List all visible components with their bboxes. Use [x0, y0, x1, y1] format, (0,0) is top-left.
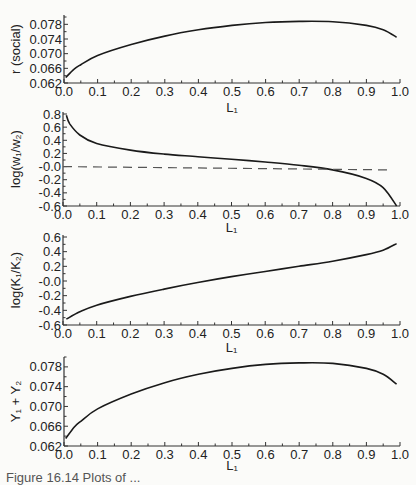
x-tick-label: 0.8 — [324, 207, 342, 222]
y-axis-label: r (social) — [8, 24, 23, 74]
x-axis-label: L₁ — [226, 458, 238, 473]
y-tick-label: 0.066 — [29, 61, 62, 76]
x-tick-label: 0.6 — [256, 207, 274, 222]
y-tick-label: 0.6 — [43, 230, 61, 245]
data-curve — [66, 115, 396, 206]
y-tick-label: -0.4 — [39, 303, 61, 318]
x-tick-label: 0.1 — [88, 326, 106, 341]
x-tick-label: 0.4 — [189, 207, 207, 222]
panel-4: 0.00.10.20.30.40.50.60.70.80.91.00.0620.… — [8, 357, 409, 473]
panel-3: 0.00.10.20.30.40.50.60.70.80.91.00.60.40… — [8, 230, 409, 356]
x-tick-label: 0.2 — [121, 326, 139, 341]
x-tick-label: 0.3 — [156, 447, 174, 462]
y-tick-label: 0.2 — [43, 259, 61, 274]
x-tick-label: 0.5 — [223, 84, 241, 99]
x-tick-label: 0.7 — [290, 84, 308, 99]
x-tick-label: 0.1 — [88, 207, 106, 222]
x-tick-label: 0.9 — [357, 326, 375, 341]
data-curve — [66, 244, 396, 320]
x-tick-label: 0.4 — [189, 447, 207, 462]
x-tick-label: 0.8 — [324, 84, 342, 99]
y-tick-label: -0.2 — [39, 288, 61, 303]
y-tick-label: -0.0 — [39, 274, 61, 289]
y-tick-label: -0.6 — [39, 199, 61, 214]
y-tick-label: 0.074 — [29, 32, 62, 47]
y-tick-label: 0.066 — [29, 419, 62, 434]
data-curve — [66, 21, 397, 77]
x-tick-label: 0.9 — [357, 207, 375, 222]
figure-caption: Figure 16.14 Plots of ... — [6, 470, 140, 485]
x-tick-label: 1.0 — [391, 84, 409, 99]
x-tick-label: 0.4 — [189, 326, 207, 341]
y-tick-label: 0.070 — [29, 399, 62, 414]
x-tick-label: 0.7 — [290, 447, 308, 462]
y-tick-label: 0.062 — [29, 76, 62, 91]
x-tick-label: 0.7 — [290, 326, 308, 341]
x-tick-label: 0.6 — [257, 447, 275, 462]
x-tick-label: 0.3 — [155, 326, 173, 341]
x-tick-label: 0.5 — [222, 326, 240, 341]
data-curve — [66, 363, 397, 439]
x-axis-label: L₁ — [226, 220, 238, 235]
y-tick-label: 0.070 — [29, 46, 62, 61]
x-tick-label: 0.2 — [122, 84, 140, 99]
y-axis-label: Y₁ + Y₂ — [8, 381, 23, 422]
y-tick-label: 0.078 — [29, 17, 62, 32]
y-tick-label: -0.6 — [39, 318, 61, 333]
x-axis-label: L₁ — [226, 100, 238, 115]
reference-dashed-line — [63, 167, 390, 170]
x-tick-label: 0.9 — [357, 84, 375, 99]
x-tick-label: 0.7 — [290, 207, 308, 222]
panel-2: 0.00.10.20.30.40.50.60.70.80.91.00.80.60… — [8, 107, 409, 236]
x-tick-label: 0.1 — [89, 84, 107, 99]
x-tick-label: 1.0 — [391, 207, 409, 222]
x-tick-label: 0.6 — [256, 326, 274, 341]
y-tick-label: 0.4 — [43, 244, 61, 259]
x-tick-label: 1.0 — [391, 326, 409, 341]
x-tick-label: 0.8 — [324, 447, 342, 462]
x-tick-label: 0.9 — [357, 447, 375, 462]
y-tick-label: 0.074 — [29, 379, 62, 394]
x-tick-label: 0.3 — [155, 207, 173, 222]
x-tick-label: 0.2 — [122, 447, 140, 462]
x-tick-label: 0.4 — [189, 84, 207, 99]
x-axis-label: L₁ — [226, 340, 238, 355]
x-tick-label: 1.0 — [391, 447, 409, 462]
x-tick-label: 0.1 — [89, 447, 107, 462]
y-tick-label: 0.078 — [29, 359, 62, 374]
x-tick-label: 0.6 — [257, 84, 275, 99]
y-tick-label: 0.062 — [29, 439, 62, 454]
panel-1: 0.00.10.20.30.40.50.60.70.80.91.00.0620.… — [8, 15, 409, 115]
y-axis-label: log(K₁/K₂) — [8, 252, 23, 308]
x-tick-label: 0.2 — [121, 207, 139, 222]
x-tick-label: 0.8 — [324, 326, 342, 341]
y-axis-label: log(w₁/w₂) — [8, 130, 23, 188]
x-tick-label: 0.3 — [156, 84, 174, 99]
